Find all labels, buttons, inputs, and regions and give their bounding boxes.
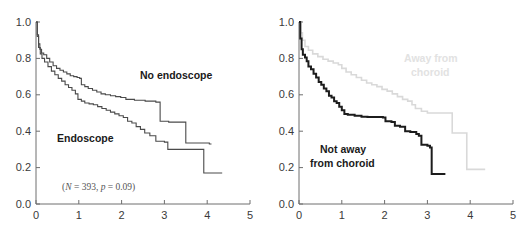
y-tick-label: 0.6 xyxy=(279,88,294,100)
left-panel-svg: 0.0 0.2 0.4 0.6 0.8 1.0 0 1 2 3 4 5 No e… xyxy=(0,0,263,231)
right-axes xyxy=(299,22,513,204)
right-y-tick-labels: 0.0 0.2 0.4 0.6 0.8 1.0 xyxy=(279,16,294,210)
right-panel-svg: 0.0 0.2 0.4 0.6 0.8 1.0 0 1 2 3 4 5 Away… xyxy=(263,0,526,231)
x-tick-label: 5 xyxy=(247,209,253,221)
x-tick-label: 0 xyxy=(33,209,39,221)
y-tick-label: 1.0 xyxy=(279,16,294,28)
x-tick-label: 1 xyxy=(76,209,82,221)
y-tick-label: 0.4 xyxy=(279,125,294,137)
y-tick-label: 1.0 xyxy=(16,16,31,28)
chart-panel-right: 0.0 0.2 0.4 0.6 0.8 1.0 0 1 2 3 4 5 Away… xyxy=(263,0,526,231)
y-tick-label: 0.4 xyxy=(16,125,31,137)
left-axes xyxy=(36,22,250,204)
y-tick-label: 0.8 xyxy=(16,52,31,64)
statistics-annotation: (N = 393, p = 0.09) xyxy=(62,182,135,193)
x-tick-label: 5 xyxy=(510,209,516,221)
left-x-tick-labels: 0 1 2 3 4 5 xyxy=(33,209,253,221)
y-tick-label: 0.6 xyxy=(16,88,31,100)
y-tick-label: 0.8 xyxy=(279,52,294,64)
chart-panel-left: 0.0 0.2 0.4 0.6 0.8 1.0 0 1 2 3 4 5 No e… xyxy=(0,0,263,231)
y-tick-label: 0.0 xyxy=(279,198,294,210)
y-tick-label: 0.2 xyxy=(16,161,31,173)
x-tick-label: 2 xyxy=(382,209,388,221)
survival-curves-figure: 0.0 0.2 0.4 0.6 0.8 1.0 0 1 2 3 4 5 No e… xyxy=(0,0,526,231)
x-tick-label: 1 xyxy=(339,209,345,221)
curve-label-line1: Away from xyxy=(404,52,458,64)
right-x-tick-labels: 0 1 2 3 4 5 xyxy=(296,209,516,221)
curve-label-away-from-choroid: Away from choroid xyxy=(404,52,458,78)
curve-label-no-endoscope: No endoscope xyxy=(140,69,213,81)
curve-label-line2: from choroid xyxy=(310,157,375,169)
y-tick-label: 0.0 xyxy=(16,198,31,210)
x-tick-label: 0 xyxy=(296,209,302,221)
survival-curve-endoscope xyxy=(36,22,222,173)
x-tick-label: 4 xyxy=(467,209,473,221)
x-tick-label: 2 xyxy=(119,209,125,221)
x-tick-label: 3 xyxy=(161,209,167,221)
x-tick-label: 4 xyxy=(204,209,210,221)
left-y-tick-labels: 0.0 0.2 0.4 0.6 0.8 1.0 xyxy=(16,16,31,210)
x-tick-label: 3 xyxy=(424,209,430,221)
survival-curve-no-endoscope xyxy=(36,22,211,144)
curve-label-line1: Not away xyxy=(320,143,366,155)
curve-label-line2: choroid xyxy=(411,66,450,78)
curve-label-endoscope: Endoscope xyxy=(57,132,114,144)
curve-label-not-away-from-choroid: Not away from choroid xyxy=(310,143,375,169)
y-tick-label: 0.2 xyxy=(279,161,294,173)
